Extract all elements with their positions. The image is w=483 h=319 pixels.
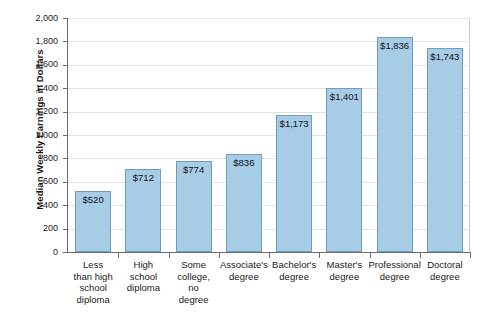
category-label-line: Bachelor's xyxy=(272,259,316,270)
y-axis-tick-label: 200 xyxy=(0,224,58,233)
y-axis-tick-label: 800 xyxy=(0,154,58,163)
gridline xyxy=(68,18,470,19)
bar xyxy=(326,88,362,252)
category-label-line: degree xyxy=(430,271,460,282)
category-label-line: Less xyxy=(83,259,103,270)
bar xyxy=(276,115,312,252)
bar-value-label: $1,743 xyxy=(414,52,476,62)
y-axis-tick-label: 1,000 xyxy=(0,131,58,140)
category-label-line: High xyxy=(134,259,154,270)
x-axis-tick-mark xyxy=(118,253,119,258)
category-label-line: Doctoral xyxy=(427,259,462,270)
y-axis-tick-label: 1,400 xyxy=(0,84,58,93)
x-axis-tick-mark xyxy=(470,253,471,258)
y-axis-tick-label: 1,200 xyxy=(0,107,58,116)
bar-value-label: $836 xyxy=(213,158,275,168)
category-label-line: degree xyxy=(380,271,410,282)
category-label-line: degree xyxy=(179,294,209,305)
category-label-line: Some xyxy=(181,259,206,270)
category-label-line: diploma xyxy=(127,282,160,293)
x-axis-category-label: Doctoraldegree xyxy=(413,259,477,282)
x-axis-tick-mark xyxy=(169,253,170,258)
bar-value-label: $1,401 xyxy=(313,92,375,102)
x-axis-tick-mark xyxy=(420,253,421,258)
bar-value-label: $520 xyxy=(62,195,124,205)
bar xyxy=(377,37,413,252)
category-label-line: school xyxy=(79,282,106,293)
y-axis-tick-label: 1,800 xyxy=(0,37,58,46)
category-label-line: diploma xyxy=(76,294,109,305)
category-label-line: than high xyxy=(74,271,113,282)
bar-value-label: $1,836 xyxy=(364,41,426,51)
category-label-line: degree xyxy=(229,271,259,282)
y-axis-tick-label: 400 xyxy=(0,201,58,210)
x-axis-tick-mark xyxy=(219,253,220,258)
x-axis-tick-mark xyxy=(319,253,320,258)
plot-area: $520$712$774$836$1,173$1,401$1,836$1,743 xyxy=(68,18,470,252)
y-axis-tick-label: 2,000 xyxy=(0,14,58,23)
bar xyxy=(226,154,262,252)
category-label-line: college, xyxy=(177,271,210,282)
category-label-line: Master's xyxy=(327,259,363,270)
y-axis-tick-label: 1,600 xyxy=(0,60,58,69)
x-axis-tick-mark xyxy=(269,253,270,258)
category-label-line: degree xyxy=(330,271,360,282)
x-axis-tick-mark xyxy=(370,253,371,258)
y-axis-tick-label: 0 xyxy=(0,248,58,257)
bar-value-label: $1,173 xyxy=(263,119,325,129)
category-label-line: no xyxy=(188,282,199,293)
category-label-line: school xyxy=(130,271,157,282)
category-label-line: Associate's xyxy=(220,259,268,270)
bar-chart: Median Weekly Earnings in Dollars 2,0001… xyxy=(0,0,483,319)
y-axis-tick-label: 600 xyxy=(0,177,58,186)
category-label-line: degree xyxy=(279,271,309,282)
bar xyxy=(427,48,463,252)
